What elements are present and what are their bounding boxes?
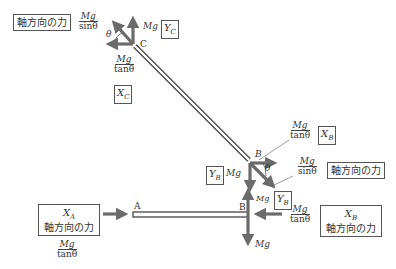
point-b-upper-label: B [255, 150, 262, 159]
xb-box-upper: XB [318, 126, 336, 145]
horizontal-member [133, 212, 248, 217]
theta-b: θ [265, 164, 270, 173]
mg-over-tan-c: Mgtanθ [112, 55, 136, 75]
mg-c: Mg [143, 22, 158, 31]
point-a-label: A [134, 202, 141, 211]
leader-xb [259, 140, 289, 160]
diagonal-member [135, 46, 249, 160]
axial-force-box-c: 軸方向の力 [13, 14, 71, 31]
xa-axial-box: XA 軸方向の力 [38, 204, 100, 236]
point-c-label: C [140, 40, 147, 49]
mg-over-tan-b-lower: Mgtanθ [288, 205, 312, 225]
mg-over-sin-b: Mgsinθ [296, 157, 319, 177]
mg-b-lower-up: Mg [256, 195, 269, 203]
yb-box-upper: YB [206, 166, 224, 185]
mg-b-lower-down: Mg [255, 240, 270, 249]
yc-box: YC [161, 20, 179, 39]
mg-over-tan-b-upper: Mgtanθ [288, 121, 312, 141]
forces-at-c [112, 22, 133, 44]
xb-axial-box-lower: XB 軸方向の力 [320, 205, 382, 237]
point-b-lower-label: B [239, 203, 246, 212]
xc-box: XC [114, 85, 132, 104]
mg-b-upper: Mg [226, 169, 241, 178]
mg-over-sin-c: Mgsinθ [77, 12, 100, 32]
theta-arc-c-icon [115, 33, 122, 40]
theta-c: θ [106, 30, 111, 39]
mg-over-tan-a: Mgtanθ [55, 240, 79, 260]
axial-force-box-b: 軸方向の力 [327, 162, 385, 179]
leader-axial-b [272, 176, 293, 186]
